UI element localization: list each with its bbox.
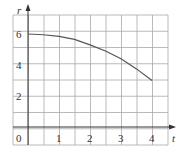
x-tick-label: 0 [16, 132, 22, 144]
x-tick-label: 4 [149, 132, 155, 144]
x-tick-label: 3 [118, 132, 124, 144]
axes [13, 4, 176, 145]
y-axis-label: r [17, 4, 22, 16]
y-tick-label: 2 [16, 90, 22, 102]
x-tick-labels: 01234 [16, 132, 155, 144]
x-axis-arrow-icon [169, 125, 176, 130]
x-axis-label: t [172, 132, 176, 144]
y-tick-label: 6 [16, 28, 22, 40]
chart: r t 01234 246 [0, 0, 179, 151]
x-tick-label: 1 [56, 132, 62, 144]
data-curve [28, 34, 152, 81]
y-tick-labels: 246 [16, 28, 22, 102]
y-axis-arrow-icon [26, 4, 31, 11]
x-tick-label: 2 [87, 132, 93, 144]
y-tick-label: 4 [16, 59, 22, 71]
